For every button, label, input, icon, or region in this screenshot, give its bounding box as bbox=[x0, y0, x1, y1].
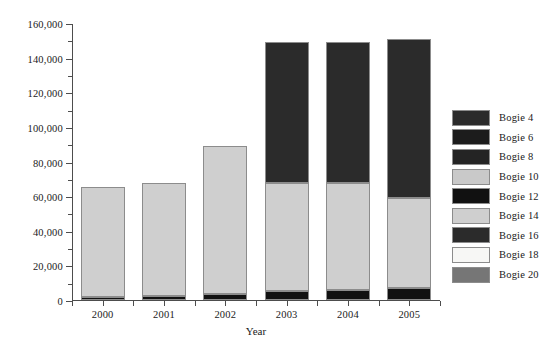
x-axis-tick bbox=[103, 301, 104, 306]
legend-swatch bbox=[452, 247, 490, 263]
bar-segment[interactable] bbox=[326, 290, 370, 300]
x-axis-tick-label: 2001 bbox=[153, 309, 175, 320]
bar-segment[interactable] bbox=[265, 42, 309, 183]
x-axis-tick bbox=[256, 301, 257, 306]
x-axis-tick bbox=[409, 301, 410, 306]
x-axis-tick bbox=[379, 301, 380, 306]
y-axis-tick-label: 160,000 bbox=[27, 19, 63, 30]
legend-label: Bogie 10 bbox=[499, 171, 539, 182]
legend-item[interactable]: Bogie 14 bbox=[452, 206, 556, 226]
y-axis-minor-tick bbox=[68, 76, 72, 77]
y-axis-tick bbox=[66, 24, 72, 25]
y-axis-minor-tick bbox=[68, 111, 72, 112]
bar-segment[interactable] bbox=[387, 39, 431, 198]
legend-label: Bogie 12 bbox=[499, 191, 539, 202]
legend-swatch bbox=[452, 208, 490, 224]
bar-segment[interactable] bbox=[326, 42, 370, 183]
x-axis-tick-label: 2004 bbox=[337, 309, 359, 320]
x-axis-tick-label: 2002 bbox=[214, 309, 236, 320]
legend-label: Bogie 16 bbox=[499, 230, 539, 241]
legend-swatch bbox=[452, 267, 490, 283]
y-axis-tick-label: 40,000 bbox=[33, 226, 63, 237]
bar-segment[interactable] bbox=[326, 183, 370, 289]
plot-area: 020,00040,00060,00080,000100,000120,0001… bbox=[72, 24, 440, 301]
legend-swatch bbox=[452, 110, 490, 126]
y-axis-minor-tick bbox=[68, 180, 72, 181]
y-axis-tick-label: 120,000 bbox=[27, 88, 63, 99]
bar-segment[interactable] bbox=[203, 146, 247, 295]
x-axis-tick bbox=[317, 301, 318, 306]
y-axis-minor-tick bbox=[68, 284, 72, 285]
x-axis-tick-label: 2003 bbox=[276, 309, 298, 320]
legend-item[interactable]: Bogie 18 bbox=[452, 245, 556, 265]
legend-swatch bbox=[452, 149, 490, 165]
bar-stack[interactable] bbox=[203, 23, 247, 300]
x-axis-title: Year bbox=[72, 325, 440, 337]
y-axis-tick-label: 20,000 bbox=[33, 261, 63, 272]
bar-stack[interactable] bbox=[142, 23, 186, 300]
y-axis-tick bbox=[66, 232, 72, 233]
x-axis-tick-label: 2000 bbox=[92, 309, 114, 320]
y-axis-line bbox=[72, 24, 73, 301]
x-axis-tick bbox=[287, 301, 288, 306]
legend-item[interactable]: Bogie 12 bbox=[452, 186, 556, 206]
bar-segment[interactable] bbox=[203, 294, 247, 300]
y-axis-tick bbox=[66, 266, 72, 267]
legend-item[interactable]: Bogie 10 bbox=[452, 167, 556, 187]
y-axis-tick-label: 0 bbox=[58, 296, 63, 307]
bar-segment[interactable] bbox=[81, 187, 125, 297]
y-axis-tick bbox=[66, 197, 72, 198]
x-axis-tick bbox=[72, 301, 73, 306]
x-axis-tick bbox=[133, 301, 134, 306]
legend-item[interactable]: Bogie 20 bbox=[452, 265, 556, 285]
y-axis-tick-label: 60,000 bbox=[33, 192, 63, 203]
y-axis-tick-label: 140,000 bbox=[27, 53, 63, 64]
x-axis-tick bbox=[164, 301, 165, 306]
bar-stack[interactable] bbox=[326, 23, 370, 300]
y-axis-tick-label: 100,000 bbox=[27, 122, 63, 133]
legend-label: Bogie 14 bbox=[499, 210, 539, 221]
y-axis-tick-label: 80,000 bbox=[33, 157, 63, 168]
legend-swatch bbox=[452, 169, 490, 185]
legend-item[interactable]: Bogie 6 bbox=[452, 128, 556, 148]
bar-segment[interactable] bbox=[142, 183, 186, 296]
y-axis-minor-tick bbox=[68, 249, 72, 250]
legend-swatch bbox=[452, 227, 490, 243]
bar-segment[interactable] bbox=[81, 297, 125, 300]
bar-stack[interactable] bbox=[81, 23, 125, 300]
legend-label: Bogie 8 bbox=[499, 151, 533, 162]
y-axis-tick bbox=[66, 93, 72, 94]
y-axis-tick bbox=[66, 163, 72, 164]
y-axis-minor-tick bbox=[68, 145, 72, 146]
x-axis-tick bbox=[440, 301, 441, 306]
chart-legend: Bogie 4Bogie 6Bogie 8Bogie 10Bogie 12Bog… bbox=[452, 108, 556, 284]
bar-segment[interactable] bbox=[142, 296, 186, 300]
x-axis-tick bbox=[225, 301, 226, 306]
legend-label: Bogie 6 bbox=[499, 132, 533, 143]
y-axis-minor-tick bbox=[68, 214, 72, 215]
x-axis-tick bbox=[195, 301, 196, 306]
bar-stack[interactable] bbox=[265, 23, 309, 300]
legend-swatch bbox=[452, 129, 490, 145]
bar-stack[interactable] bbox=[387, 23, 431, 300]
bar-segment[interactable] bbox=[265, 291, 309, 300]
legend-item[interactable]: Bogie 16 bbox=[452, 226, 556, 246]
legend-label: Bogie 4 bbox=[499, 112, 533, 123]
y-axis-tick bbox=[66, 59, 72, 60]
bar-chart: 020,00040,00060,00080,000100,000120,0001… bbox=[0, 0, 558, 351]
legend-label: Bogie 20 bbox=[499, 269, 539, 280]
legend-item[interactable]: Bogie 8 bbox=[452, 147, 556, 167]
bar-segment[interactable] bbox=[387, 288, 431, 300]
bar-segment[interactable] bbox=[265, 183, 309, 291]
legend-label: Bogie 18 bbox=[499, 249, 539, 260]
y-axis-tick bbox=[66, 128, 72, 129]
legend-item[interactable]: Bogie 4 bbox=[452, 108, 556, 128]
y-axis-minor-tick bbox=[68, 41, 72, 42]
x-axis-tick bbox=[348, 301, 349, 306]
bar-segment[interactable] bbox=[387, 198, 431, 288]
legend-swatch bbox=[452, 188, 490, 204]
x-axis-tick-label: 2005 bbox=[398, 309, 420, 320]
